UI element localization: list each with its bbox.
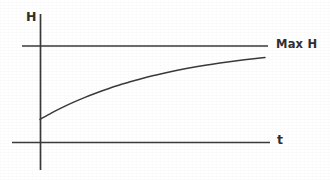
diagram-canvas [0,0,330,180]
y-axis-label: H [26,11,36,24]
max-h-label: Max H [276,39,317,51]
saturation-curve [40,57,265,119]
x-axis-label: t [277,134,283,147]
figure-container: H t Max H [0,0,330,180]
